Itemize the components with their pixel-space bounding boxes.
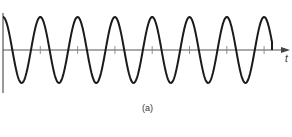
t-axis-label: t (285, 53, 288, 64)
waveform-diagram (0, 0, 292, 137)
figure-caption: (a) (142, 103, 153, 113)
